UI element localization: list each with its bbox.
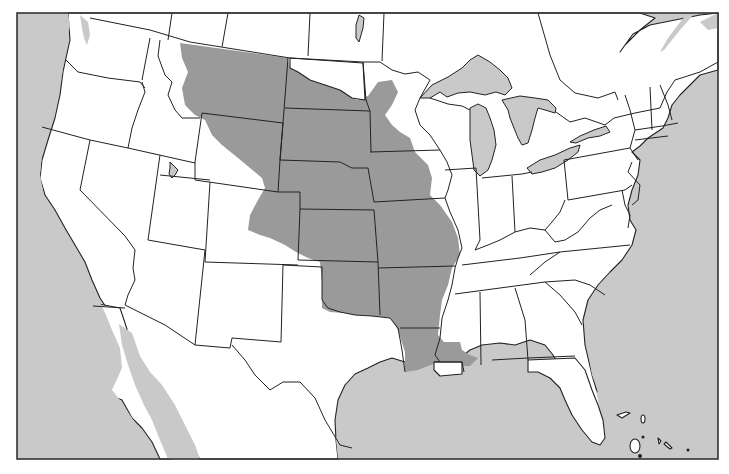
map-figure bbox=[0, 0, 729, 474]
unshaded-louisiana-se bbox=[434, 362, 462, 376]
island-bahamas-2 bbox=[641, 415, 645, 423]
map-svg bbox=[0, 0, 729, 474]
island-small-3 bbox=[638, 454, 642, 458]
island-small-2 bbox=[687, 449, 690, 452]
island-small-1 bbox=[642, 436, 645, 439]
island-cuba-part bbox=[630, 439, 640, 453]
